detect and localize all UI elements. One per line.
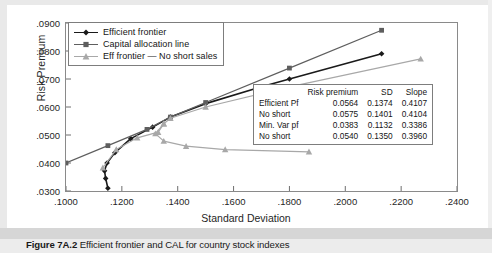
cell-sd: 0.1350 <box>358 130 392 141</box>
legend-item-label: Eff frontier — No short sales <box>103 51 217 61</box>
statistics-table-body: Efficient Pf0.05640.13740.4107No short0.… <box>259 98 427 141</box>
figure-container: Risk Premium .0300.0400.0500.0600.0700.0… <box>0 0 492 253</box>
data-point-marker <box>105 185 111 191</box>
x-tick-label: .1400 <box>155 196 201 207</box>
legend-item-1[interactable]: Capital allocation line <box>73 38 217 50</box>
data-point-marker <box>105 143 110 148</box>
y-tick-label: .0500 <box>18 130 60 141</box>
legend-item-label: Efficient frontier <box>103 27 166 37</box>
row-label: No short <box>259 109 299 120</box>
data-point-marker <box>103 176 109 182</box>
cell-sd: 0.1132 <box>358 120 392 131</box>
col-header-blank <box>259 87 299 98</box>
x-tick-label: .1000 <box>43 196 89 207</box>
table-row: No short0.05750.14010.4104 <box>259 109 427 120</box>
data-point-marker <box>379 28 384 33</box>
cell-risk-premium: 0.0575 <box>299 109 359 120</box>
x-tick-label: .2000 <box>322 196 368 207</box>
data-point-marker <box>83 41 88 46</box>
chart-legend: Efficient frontierCapital allocation lin… <box>68 22 224 66</box>
cell-sd: 0.1401 <box>358 109 392 120</box>
data-point-marker <box>145 127 150 132</box>
data-point-marker <box>83 53 90 59</box>
y-tick-label: .0900 <box>18 18 60 29</box>
statistics-table-head: Risk premium SD Slope <box>259 87 427 98</box>
legend-item-2[interactable]: Eff frontier — No short sales <box>73 50 217 62</box>
cell-slope: 0.3960 <box>393 130 427 141</box>
legend-item-0[interactable]: Efficient frontier <box>73 26 217 38</box>
table-row: Efficient Pf0.05640.13740.4107 <box>259 98 427 109</box>
legend-square-icon <box>73 39 99 50</box>
data-point-marker <box>83 29 89 35</box>
x-tick-label: .2400 <box>434 196 480 207</box>
x-tick-label: .1800 <box>266 196 312 207</box>
row-label: No short <box>259 130 299 141</box>
cell-risk-premium: 0.0383 <box>299 120 359 131</box>
data-point-marker <box>287 66 292 71</box>
y-tick-label: .0700 <box>18 74 60 85</box>
col-header-sd: SD <box>358 87 392 98</box>
caption-band-upper <box>0 228 492 239</box>
y-tick-label: .0300 <box>18 186 60 197</box>
cell-slope: 0.3386 <box>393 120 427 131</box>
data-point-marker <box>287 76 293 82</box>
x-tick-label: .1600 <box>211 196 257 207</box>
col-header-slope: Slope <box>393 87 427 98</box>
page-edge-right <box>488 0 492 232</box>
figure-caption-label: Figure 7A.2 <box>26 239 77 250</box>
page-edge-top <box>0 0 492 5</box>
data-point-marker <box>417 56 423 62</box>
page-edge-left <box>0 0 7 232</box>
table-header-row: Risk premium SD Slope <box>259 87 427 98</box>
cell-risk-premium: 0.0564 <box>299 98 359 109</box>
legend-item-label: Capital allocation line <box>103 39 189 49</box>
x-axis-title: Standard Deviation <box>0 212 492 224</box>
col-header-risk-premium: Risk premium <box>299 87 359 98</box>
table-row: No short0.05400.13500.3960 <box>259 130 427 141</box>
x-axis-tick-labels: .1000.1200.1400.1600.1800.2000.2200.2400 <box>65 196 458 210</box>
statistics-table-grid: Risk premium SD Slope Efficient Pf0.0564… <box>259 87 427 141</box>
figure-caption-text: Efficient frontier and CAL for country s… <box>80 239 290 250</box>
legend-diamond-icon <box>73 27 99 38</box>
y-tick-label: .0400 <box>18 158 60 169</box>
cell-slope: 0.4107 <box>393 98 427 109</box>
data-point-marker <box>66 161 68 166</box>
row-label: Min. Var pf <box>259 120 299 131</box>
statistics-table: Risk premium SD Slope Efficient Pf0.0564… <box>253 84 433 145</box>
y-axis-tick-labels: .0300.0400.0500.0600.0700.0800.0900 <box>14 22 60 192</box>
cell-sd: 0.1374 <box>358 98 392 109</box>
cell-risk-premium: 0.0540 <box>299 130 359 141</box>
data-point-marker <box>379 51 385 57</box>
y-tick-label: .0800 <box>18 46 60 57</box>
cell-slope: 0.4104 <box>393 109 427 120</box>
figure-caption: Figure 7A.2 Efficient frontier and CAL f… <box>26 239 476 250</box>
table-row: Min. Var pf0.03830.11320.3386 <box>259 120 427 131</box>
x-tick-label: .2200 <box>378 196 424 207</box>
legend-triangle-icon <box>73 51 99 62</box>
y-tick-label: .0600 <box>18 102 60 113</box>
row-label: Efficient Pf <box>259 98 299 109</box>
x-tick-label: .1200 <box>99 196 145 207</box>
